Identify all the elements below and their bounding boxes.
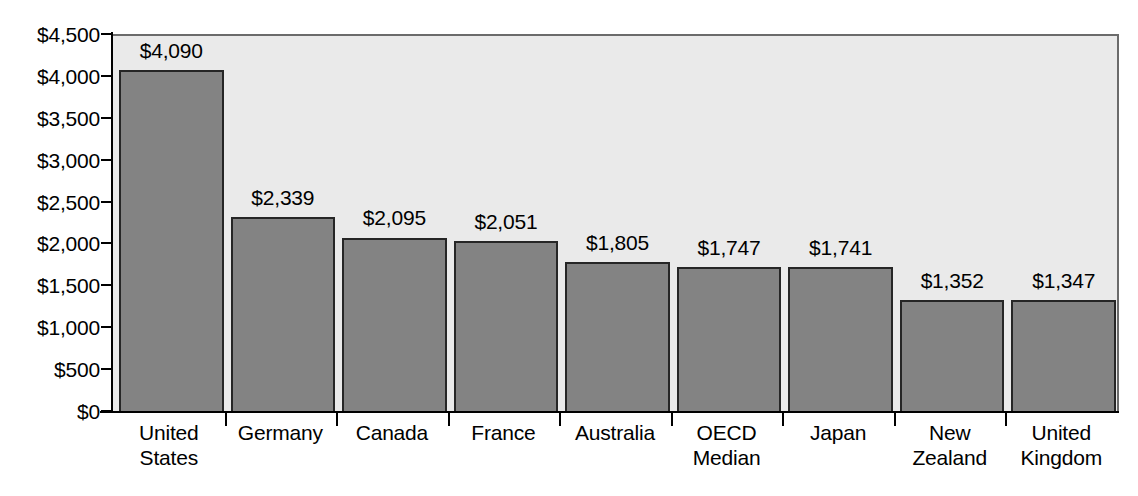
x-axis-category-label: France <box>448 420 560 445</box>
bar-value-label: $1,347 <box>1011 270 1116 291</box>
x-axis-category-line: New <box>894 420 1006 445</box>
x-axis-category-label: Australia <box>559 420 671 445</box>
bar <box>454 241 559 413</box>
y-axis-tick-mark <box>101 326 113 328</box>
x-axis-tick-mark <box>448 413 450 426</box>
plot-area <box>113 34 1119 413</box>
x-axis-category-line: United <box>1005 420 1117 445</box>
x-axis-category-line: Canada <box>336 420 448 445</box>
y-axis-tick-mark <box>101 242 113 244</box>
x-axis-category-label: Germany <box>225 420 337 445</box>
x-axis-category-label: UnitedKingdom <box>1005 420 1117 470</box>
x-axis-category-label: OECDMedian <box>671 420 783 470</box>
x-axis-category-label: Canada <box>336 420 448 445</box>
bar-value-label: $2,095 <box>342 207 447 228</box>
bar-value-label: $2,339 <box>231 187 336 208</box>
x-axis-tick-mark <box>782 413 784 426</box>
bar <box>1011 300 1116 413</box>
y-axis-tick-mark <box>101 117 113 119</box>
x-axis-tick-mark <box>559 413 561 426</box>
y-axis-tick-label: $0 <box>0 401 100 422</box>
bar-value-label: $1,747 <box>677 237 782 258</box>
y-axis-tick-mark <box>101 368 113 370</box>
x-axis-category-line: Australia <box>559 420 671 445</box>
x-axis-category-line: Zealand <box>894 445 1006 470</box>
x-axis-category-line: OECD <box>671 420 783 445</box>
x-axis-category-line: Japan <box>782 420 894 445</box>
x-axis-category-line: France <box>448 420 560 445</box>
x-axis-category-line: States <box>113 445 225 470</box>
bar <box>231 217 336 413</box>
bar-value-label: $1,805 <box>565 232 670 253</box>
y-axis-tick-label: $3,000 <box>0 149 100 170</box>
x-axis-category-line: United <box>113 420 225 445</box>
y-axis-tick-label: $500 <box>0 359 100 380</box>
x-axis-category-line: Kingdom <box>1005 445 1117 470</box>
y-axis-tick-mark <box>101 33 113 35</box>
bar-chart: $0$500$1,000$1,500$2,000$2,500$3,000$3,5… <box>0 0 1138 496</box>
bar <box>119 70 224 413</box>
y-axis-tick-label: $2,000 <box>0 233 100 254</box>
y-axis-tick-label: $2,500 <box>0 191 100 212</box>
y-axis-tick-mark <box>101 159 113 161</box>
bar <box>565 262 670 413</box>
x-axis-category-label: NewZealand <box>894 420 1006 470</box>
y-axis-tick-mark <box>101 201 113 203</box>
bar-value-label: $4,090 <box>119 40 224 61</box>
bar <box>900 300 1005 413</box>
x-axis-category-label: Japan <box>782 420 894 445</box>
bar-value-label: $2,051 <box>454 211 559 232</box>
bar-value-label: $1,352 <box>900 270 1005 291</box>
y-axis-tick-label: $1,500 <box>0 275 100 296</box>
y-axis-tick-label: $4,000 <box>0 65 100 86</box>
y-axis-tick-label: $1,000 <box>0 317 100 338</box>
bar <box>677 267 782 413</box>
bar <box>342 238 447 414</box>
x-axis-tick-mark <box>894 413 896 426</box>
x-axis-category-label: UnitedStates <box>113 420 225 470</box>
y-axis-tick-label: $3,500 <box>0 107 100 128</box>
y-axis-tick-mark <box>101 284 113 286</box>
x-axis-tick-mark <box>336 413 338 426</box>
x-axis-tick-mark <box>671 413 673 426</box>
y-axis-tick-mark <box>101 75 113 77</box>
x-axis: UnitedStatesGermanyCanadaFranceAustralia… <box>113 420 1117 490</box>
bar-value-label: $1,741 <box>788 237 893 258</box>
y-axis-tick-mark <box>101 410 113 412</box>
bar <box>788 267 893 413</box>
x-axis-line <box>100 411 1119 413</box>
x-axis-tick-mark <box>1005 413 1007 426</box>
y-axis: $0$500$1,000$1,500$2,000$2,500$3,000$3,5… <box>0 0 100 496</box>
x-axis-category-line: Median <box>671 445 783 470</box>
y-axis-tick-label: $4,500 <box>0 24 100 45</box>
x-axis-tick-mark <box>225 413 227 426</box>
x-axis-category-line: Germany <box>225 420 337 445</box>
